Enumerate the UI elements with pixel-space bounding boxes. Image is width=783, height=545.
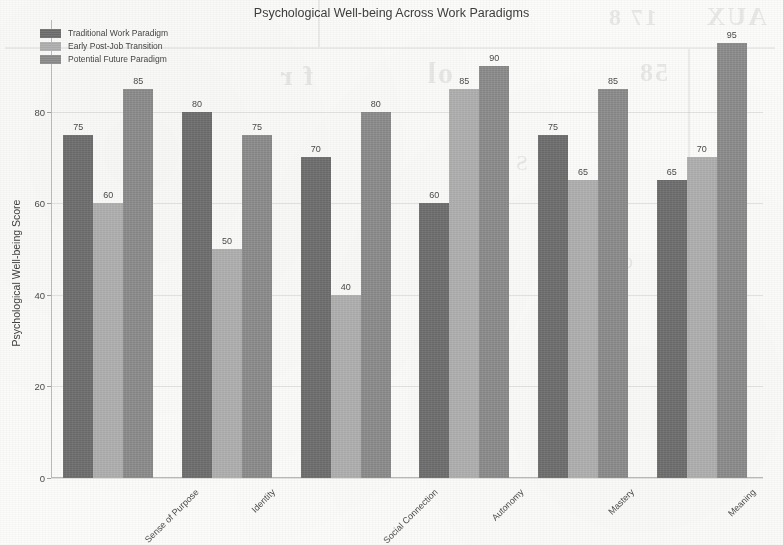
- bar-value-label: 75: [548, 122, 558, 132]
- x-tick-label: Social Connection: [381, 487, 439, 545]
- y-tick-label: 20: [34, 381, 45, 392]
- bar[interactable]: 65: [568, 180, 598, 478]
- bar[interactable]: 80: [182, 112, 212, 478]
- legend-swatch-potential-future-paradigm: [40, 55, 61, 64]
- bar[interactable]: 60: [93, 203, 123, 478]
- legend-item[interactable]: Traditional Work Paradigm: [40, 28, 168, 38]
- y-tick-label: 80: [34, 106, 45, 117]
- bar-group: 805075: [182, 20, 272, 478]
- bar[interactable]: 85: [123, 89, 153, 478]
- bar-value-label: 75: [73, 122, 83, 132]
- y-tick-mark: [47, 478, 51, 479]
- legend-item[interactable]: Early Post-Job Transition: [40, 41, 168, 51]
- bar[interactable]: 65: [657, 180, 687, 478]
- x-tick-label: Identity: [250, 487, 278, 515]
- y-tick-mark: [47, 295, 51, 296]
- bar-value-label: 65: [667, 167, 677, 177]
- y-tick-label: 40: [34, 289, 45, 300]
- y-tick-mark: [47, 112, 51, 113]
- x-tick-label: Mastery: [606, 487, 636, 517]
- bar-value-label: 40: [341, 282, 351, 292]
- bar[interactable]: 40: [331, 295, 361, 478]
- bar-value-label: 80: [192, 99, 202, 109]
- y-tick-mark: [47, 203, 51, 204]
- y-tick-label: 60: [34, 198, 45, 209]
- y-axis-line: [51, 20, 52, 478]
- bar-value-label: 95: [727, 30, 737, 40]
- plot-area: 020406080 756085805075704080608590756585…: [51, 20, 763, 478]
- bar[interactable]: 75: [242, 135, 272, 479]
- bar[interactable]: 85: [598, 89, 628, 478]
- bar[interactable]: 75: [63, 135, 93, 479]
- y-axis-label: Psychological Well-being Score: [10, 123, 22, 423]
- bar[interactable]: 85: [449, 89, 479, 478]
- chart-title: Psychological Well-being Across Work Par…: [0, 6, 783, 20]
- bar-value-label: 75: [252, 122, 262, 132]
- bar-value-label: 85: [133, 76, 143, 86]
- bar[interactable]: 70: [687, 157, 717, 478]
- bar-group: 756085: [63, 20, 153, 478]
- y-tick-label: 0: [40, 473, 45, 484]
- gridline: [51, 478, 763, 479]
- bar-value-label: 90: [489, 53, 499, 63]
- x-tick-label: Meaning: [726, 487, 757, 518]
- bar-group: 756585: [538, 20, 628, 478]
- bar-value-label: 60: [103, 190, 113, 200]
- bar-value-label: 85: [608, 76, 618, 86]
- bar[interactable]: 80: [361, 112, 391, 478]
- bar[interactable]: 95: [717, 43, 747, 478]
- legend-label: Early Post-Job Transition: [68, 41, 162, 51]
- legend-swatch-early-post-job-transition: [40, 42, 61, 51]
- legend-swatch-traditional-work-paradigm: [40, 29, 61, 38]
- legend-label: Potential Future Paradigm: [68, 54, 167, 64]
- bar-value-label: 80: [371, 99, 381, 109]
- legend-label: Traditional Work Paradigm: [68, 28, 168, 38]
- bar-value-label: 65: [578, 167, 588, 177]
- bar-value-label: 50: [222, 236, 232, 246]
- chart-legend: Traditional Work Paradigm Early Post-Job…: [40, 28, 168, 64]
- bar-group: 704080: [301, 20, 391, 478]
- bar-value-label: 70: [697, 144, 707, 154]
- bar[interactable]: 75: [538, 135, 568, 479]
- y-tick-mark: [47, 386, 51, 387]
- bar-value-label: 60: [429, 190, 439, 200]
- bar-value-label: 85: [459, 76, 469, 86]
- bar-chart: Psychological Well-being Across Work Par…: [0, 0, 783, 545]
- bar[interactable]: 90: [479, 66, 509, 478]
- legend-item[interactable]: Potential Future Paradigm: [40, 54, 168, 64]
- bar[interactable]: 50: [212, 249, 242, 478]
- bar[interactable]: 70: [301, 157, 331, 478]
- bar-value-label: 70: [311, 144, 321, 154]
- x-tick-label: Sense of Purpose: [143, 487, 201, 545]
- bar[interactable]: 60: [419, 203, 449, 478]
- x-tick-label: Autonomy: [490, 487, 526, 523]
- bar-group: 608590: [419, 20, 509, 478]
- bar-group: 657095: [657, 20, 747, 478]
